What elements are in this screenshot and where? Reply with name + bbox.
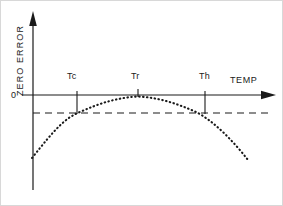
x-axis-title: TEMP (230, 75, 257, 85)
y-axis-arrowhead (29, 11, 37, 26)
tr-label: Tr (131, 71, 140, 81)
zero-tick-label: 0 (11, 90, 16, 100)
zero-error-temperature-chart: ZERO ERROR 0 Tc Tr Th TEMP (0, 0, 283, 206)
zero-error-curve (32, 97, 248, 161)
plot-area (0, 0, 283, 206)
y-axis-title-text: ZERO ERROR (15, 25, 25, 96)
th-label: Th (199, 71, 210, 81)
x-axis-arrowhead (261, 91, 276, 99)
tc-label: Tc (67, 71, 76, 81)
y-axis-title: ZERO ERROR (13, 28, 25, 96)
